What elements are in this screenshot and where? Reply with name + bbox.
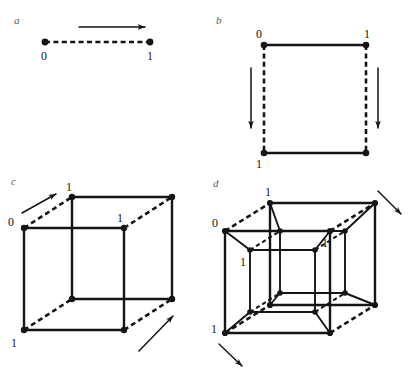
panel-b-letter: b xyxy=(216,14,222,26)
panel-d-outer-vertex-back-bottom-left xyxy=(267,302,273,308)
panel-d-outer-vertex-back-bottom-right xyxy=(372,302,378,308)
panel-a-vertex-left xyxy=(42,39,49,46)
panel-d-label-outer-front-bottom-left: 1 xyxy=(211,322,217,336)
panel-c-vertex-back-top-left xyxy=(69,194,75,200)
panel-a-vertex-right xyxy=(147,39,154,46)
panel-b-vertex-top-left xyxy=(261,42,268,49)
panel-b-label-bottom-left: 1 xyxy=(256,157,262,171)
panel-d-outer-vertex-front-top-left xyxy=(222,228,228,234)
figure-root: a 0 1 b xyxy=(0,0,413,373)
panel-b-vertex-top-right xyxy=(363,42,370,49)
panel-d-inner-vertex-front-bottom-left xyxy=(247,309,253,315)
panel-b-vertex-bottom-left xyxy=(261,150,268,157)
panel-d-inner-vertex-front-top-right xyxy=(312,247,318,253)
panel-c-vertex-back-bottom-left xyxy=(69,296,75,302)
panel-c-label-front-top-right: 1 xyxy=(117,211,123,225)
panel-d-inner-vertex-back-top-left xyxy=(277,228,283,234)
panel-d-inner-vertex-front-bottom-right xyxy=(312,309,318,315)
panel-a-letter: a xyxy=(14,14,20,26)
panel-c-label-back-top-left: 1 xyxy=(66,180,72,194)
panel-d-inner-vertex-back-bottom-right xyxy=(342,290,348,296)
panel-b-label-top-right: 1 xyxy=(364,27,370,41)
panel-d-inner-vertex-back-bottom-left xyxy=(277,290,283,296)
panel-b-label-top-left: 0 xyxy=(256,27,262,41)
panel-c-vertex-front-top-right xyxy=(121,225,127,231)
panel-a-label-one: 1 xyxy=(147,49,153,63)
panel-d-outer-vertex-back-top-left xyxy=(267,200,273,206)
panel-d-letter: d xyxy=(213,177,219,189)
panel-d-outer-vertex-front-top-right xyxy=(327,228,333,234)
panel-c-label-front-bottom-left: 1 xyxy=(11,336,17,350)
panel-d-label-inner-back-top-right: 1 xyxy=(322,236,328,250)
panel-d-inner-vertex-back-top-right xyxy=(342,228,348,234)
hypercube-construction-figure: a 0 1 b xyxy=(0,0,413,373)
panel-c-vertex-front-bottom-left xyxy=(21,327,27,333)
panel-d-inner-vertex-front-top-left xyxy=(247,247,253,253)
panel-d-label-inner-front-top-left: 1 xyxy=(240,255,246,269)
figure-background xyxy=(0,0,413,373)
panel-a-label-zero: 0 xyxy=(41,49,47,63)
panel-d-label-outer-front-top-left: 0 xyxy=(212,216,218,230)
panel-b-vertex-bottom-right xyxy=(363,150,370,157)
panel-d-outer-vertex-front-bottom-left xyxy=(222,330,228,336)
panel-d-outer-vertex-front-bottom-right xyxy=(327,330,333,336)
panel-d-label-outer-back-top-left: 1 xyxy=(265,185,271,199)
panel-c-vertex-front-top-left xyxy=(21,225,27,231)
panel-d-outer-vertex-back-top-right xyxy=(372,200,378,206)
panel-c-letter: c xyxy=(11,175,16,187)
panel-c-vertex-back-bottom-right xyxy=(169,296,175,302)
panel-c-vertex-front-bottom-right xyxy=(121,327,127,333)
panel-c-label-front-top-left: 0 xyxy=(8,215,14,229)
panel-c-vertex-back-top-right xyxy=(169,194,175,200)
